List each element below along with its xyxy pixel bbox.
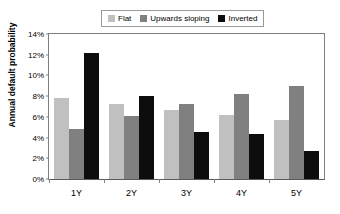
bar[interactable] xyxy=(194,132,209,179)
bar-group: 3Y xyxy=(159,34,214,179)
legend-entry[interactable]: Inverted xyxy=(218,14,257,23)
bar-group: 1Y xyxy=(49,34,104,179)
bar[interactable] xyxy=(69,129,84,179)
bar[interactable] xyxy=(219,115,234,179)
bar[interactable] xyxy=(234,94,249,179)
legend-label: Inverted xyxy=(228,14,257,23)
x-axis-tick-mark xyxy=(269,179,270,183)
bar[interactable] xyxy=(54,98,69,179)
legend-swatch-icon xyxy=(140,15,147,22)
x-axis-label: 2Y xyxy=(104,188,159,198)
bar[interactable] xyxy=(84,53,99,179)
bar[interactable] xyxy=(249,134,264,179)
x-axis-tick-mark xyxy=(49,179,50,183)
bar[interactable] xyxy=(139,96,154,179)
bar-groups: 1Y2Y3Y4Y5Y xyxy=(49,34,324,179)
x-axis-tick-mark xyxy=(104,179,105,183)
legend-label: Upwards sloping xyxy=(150,14,209,23)
bar[interactable] xyxy=(289,86,304,179)
legend-swatch-icon xyxy=(108,15,115,22)
chart-legend: FlatUpwards slopingInverted xyxy=(101,10,264,27)
bar[interactable] xyxy=(179,104,194,179)
x-axis-label: 3Y xyxy=(159,188,214,198)
bar-chart: FlatUpwards slopingInverted Annual defau… xyxy=(0,0,340,214)
bar-group: 4Y xyxy=(214,34,269,179)
bar[interactable] xyxy=(304,151,319,179)
legend-entry[interactable]: Flat xyxy=(108,14,131,23)
plot-area: 14%12%10%8%6%4%2%0% 1Y2Y3Y4Y5Y xyxy=(48,33,325,180)
x-axis-label: 1Y xyxy=(49,188,104,198)
bar[interactable] xyxy=(124,116,139,179)
x-axis-tick-mark xyxy=(214,179,215,183)
y-axis-title: Annual default probability xyxy=(7,0,17,150)
legend-label: Flat xyxy=(118,14,131,23)
legend-swatch-icon xyxy=(218,15,225,22)
x-axis-label: 5Y xyxy=(269,188,324,198)
x-axis-tick-mark xyxy=(159,179,160,183)
bar[interactable] xyxy=(164,110,179,179)
bar-group: 5Y xyxy=(269,34,324,179)
x-axis-label: 4Y xyxy=(214,188,269,198)
bar-group: 2Y xyxy=(104,34,159,179)
legend-entry[interactable]: Upwards sloping xyxy=(140,14,209,23)
bar[interactable] xyxy=(274,120,289,179)
bar[interactable] xyxy=(109,104,124,179)
